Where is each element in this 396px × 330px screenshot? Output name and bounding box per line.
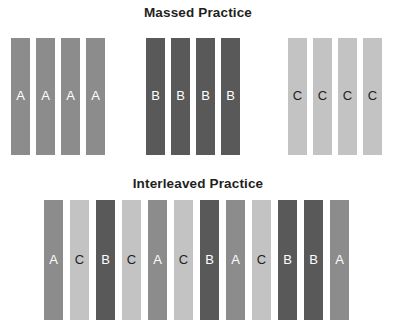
practice-bar-c: C [363, 38, 382, 155]
practice-bar-label: A [66, 89, 75, 102]
practice-bar-label: C [318, 89, 327, 102]
practice-bar-label: C [257, 253, 266, 266]
practice-bar-label: C [75, 253, 84, 266]
practice-bar-b: B [278, 200, 297, 320]
practice-bar-c: C [70, 200, 89, 320]
practice-bar-b: B [304, 200, 323, 320]
practice-bar-label: C [368, 89, 377, 102]
practice-bar-c: C [338, 38, 357, 155]
practice-bar-c: C [288, 38, 307, 155]
practice-schedule-figure: Massed Practice AAAABBBBCCCC Interleaved… [0, 0, 396, 330]
practice-bar-label: A [16, 89, 25, 102]
practice-bar-b: B [146, 38, 165, 155]
practice-bar-label: C [179, 253, 188, 266]
practice-bar-b: B [196, 38, 215, 155]
practice-bar-label: C [343, 89, 352, 102]
practice-bar-label: B [151, 89, 160, 102]
practice-bar-c: C [122, 200, 141, 320]
massed-practice-title: Massed Practice [0, 5, 396, 20]
practice-bar-label: A [41, 89, 50, 102]
practice-bar-label: B [226, 89, 235, 102]
practice-bar-c: C [174, 200, 193, 320]
practice-bar-label: C [127, 253, 136, 266]
practice-bar-a: A [11, 38, 30, 155]
practice-bar-a: A [330, 200, 349, 320]
practice-bar-a: A [148, 200, 167, 320]
practice-bar-label: A [153, 253, 162, 266]
practice-bar-b: B [96, 200, 115, 320]
practice-bar-label: A [91, 89, 100, 102]
practice-bar-label: B [101, 253, 110, 266]
interleaved-practice-title: Interleaved Practice [0, 176, 396, 191]
practice-bar-label: B [205, 253, 214, 266]
practice-bar-a: A [36, 38, 55, 155]
practice-bar-label: B [201, 89, 210, 102]
practice-bar-b: B [200, 200, 219, 320]
practice-bar-b: B [171, 38, 190, 155]
practice-bar-label: A [231, 253, 240, 266]
practice-bar-label: B [283, 253, 292, 266]
practice-bar-label: C [293, 89, 302, 102]
practice-bar-label: B [309, 253, 318, 266]
practice-bar-b: B [221, 38, 240, 155]
practice-bar-a: A [226, 200, 245, 320]
practice-bar-c: C [313, 38, 332, 155]
practice-bar-a: A [61, 38, 80, 155]
practice-bar-a: A [86, 38, 105, 155]
massed-practice-bar-row: AAAABBBBCCCC [0, 38, 396, 155]
practice-bar-a: A [44, 200, 63, 320]
practice-bar-label: A [335, 253, 344, 266]
practice-bar-label: A [49, 253, 58, 266]
interleaved-practice-bar-row: ACBCACBACBBA [0, 200, 396, 320]
practice-bar-label: B [176, 89, 185, 102]
practice-bar-c: C [252, 200, 271, 320]
